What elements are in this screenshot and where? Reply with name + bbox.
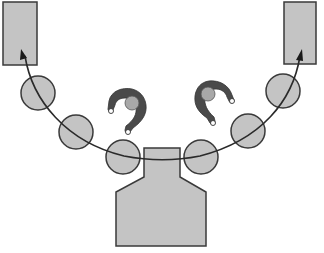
u-shaped-flow-line-diagram	[0, 0, 324, 253]
storage-rack-left	[3, 2, 37, 65]
station-2	[59, 115, 93, 149]
station-4	[184, 140, 218, 174]
operator-right	[195, 81, 235, 126]
operator-body-icon	[195, 81, 234, 124]
operator-head-icon	[125, 96, 139, 110]
operator-left	[108, 89, 146, 135]
operator-head-icon	[201, 87, 215, 101]
station-6	[266, 74, 300, 108]
